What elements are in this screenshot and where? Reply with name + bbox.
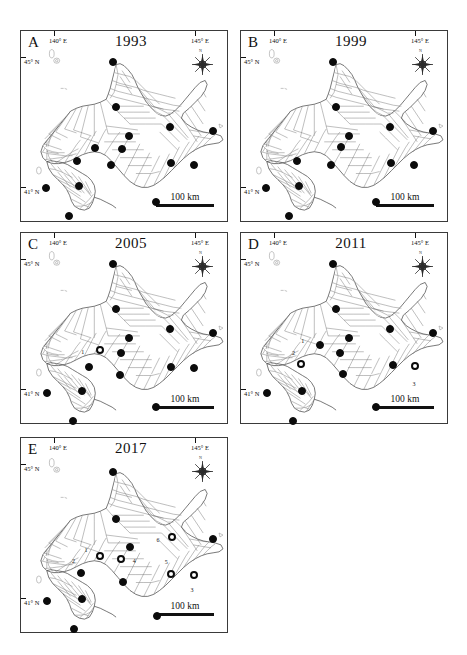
marker-number-label: 1 (84, 547, 87, 553)
map-panel-C: C 2005 140° E 145° E 45° N 41° N N 100 k… (20, 232, 228, 424)
filled-circle-site (125, 132, 133, 140)
filled-circle-site (119, 578, 127, 586)
marker-layer: 614253 (21, 438, 227, 632)
filled-circle-site (109, 58, 117, 66)
filled-circle-site (345, 334, 353, 342)
filled-circle-site (70, 625, 78, 633)
filled-circle-site (285, 212, 293, 220)
filled-circle-site (152, 403, 160, 411)
filled-circle-site (332, 103, 340, 111)
filled-circle-site (126, 543, 134, 551)
open-circle-site (117, 555, 125, 563)
filled-circle-site (78, 595, 86, 603)
filled-circle-site (112, 515, 120, 523)
filled-circle-site (153, 612, 161, 620)
marker-layer: 123 (241, 233, 447, 423)
filled-circle-site (109, 468, 117, 476)
filled-circle-site (166, 123, 174, 131)
filled-circle-site (109, 260, 117, 268)
filled-circle-site (316, 341, 324, 349)
marker-layer (21, 31, 227, 221)
marker-layer (241, 31, 447, 221)
filled-circle-site (78, 387, 86, 395)
filled-circle-site (107, 161, 115, 169)
marker-number-label: 2 (72, 558, 75, 564)
filled-circle-site (190, 161, 198, 169)
marker-number-label: 6 (156, 537, 159, 543)
filled-circle-site (263, 389, 271, 397)
filled-circle-site (262, 184, 270, 192)
open-circle-site (411, 362, 419, 370)
filled-circle-site (372, 403, 380, 411)
filled-circle-site (345, 132, 353, 140)
filled-circle-site (209, 329, 217, 337)
open-circle-site (96, 552, 104, 560)
marker-number-label: 4 (133, 558, 136, 564)
marker-number-label: 2 (292, 350, 295, 356)
filled-circle-site (386, 325, 394, 333)
filled-circle-site (386, 123, 394, 131)
filled-circle-site (116, 371, 124, 379)
filled-circle-site (75, 182, 83, 190)
marker-number-label: 5 (165, 559, 168, 565)
filled-circle-site (295, 182, 303, 190)
filled-circle-site (337, 143, 345, 151)
marker-number-label: 3 (190, 587, 193, 593)
filled-circle-site (289, 417, 297, 425)
map-panel-A: A 1993 140° E 145° E 45° N 41° N N 100 k… (20, 30, 228, 222)
marker-number-label: 3 (413, 381, 416, 387)
filled-circle-site (327, 161, 335, 169)
map-panel-D: D 2011 140° E 145° E 45° N 41° N N 100 k… (240, 232, 448, 424)
filled-circle-site (410, 161, 418, 169)
open-circle-site (167, 570, 175, 578)
filled-circle-site (77, 569, 85, 577)
filled-circle-site (85, 363, 93, 371)
filled-circle-site (209, 127, 217, 135)
filled-circle-site (125, 334, 133, 342)
filled-circle-site (298, 387, 306, 395)
filled-circle-site (166, 325, 174, 333)
filled-circle-site (190, 364, 198, 372)
filled-circle-site (42, 184, 50, 192)
figure-multi-panel-maps: A 1993 140° E 145° E 45° N 41° N N 100 k… (0, 0, 467, 655)
filled-circle-site (332, 305, 340, 313)
filled-circle-site (209, 535, 217, 543)
filled-circle-site (329, 260, 337, 268)
filled-circle-site (69, 417, 77, 425)
open-circle-site (168, 533, 176, 541)
filled-circle-site (43, 597, 51, 605)
filled-circle-site (73, 157, 81, 165)
filled-circle-site (429, 127, 437, 135)
filled-circle-site (372, 198, 380, 206)
filled-circle-site (112, 103, 120, 111)
filled-circle-site (387, 159, 395, 167)
filled-circle-site (389, 361, 397, 369)
filled-circle-site (152, 198, 160, 206)
marker-layer: 1 (21, 233, 227, 423)
filled-circle-site (65, 212, 73, 220)
filled-circle-site (91, 144, 99, 152)
filled-circle-site (329, 58, 337, 66)
marker-number-label: 1 (301, 338, 304, 344)
filled-circle-site (112, 305, 120, 313)
filled-circle-site (339, 370, 347, 378)
map-panel-B: B 1999 140° E 145° E 45° N 41° N N 100 k… (240, 30, 448, 222)
filled-circle-site (167, 159, 175, 167)
open-circle-site (96, 346, 104, 354)
marker-number-label: 1 (81, 349, 84, 355)
filled-circle-site (118, 145, 126, 153)
filled-circle-site (43, 389, 51, 397)
filled-circle-site (293, 157, 301, 165)
filled-circle-site (336, 349, 344, 357)
filled-circle-site (429, 329, 437, 337)
filled-circle-site (117, 349, 125, 357)
filled-circle-site (167, 363, 175, 371)
open-circle-site (297, 360, 305, 368)
open-circle-site (190, 571, 198, 579)
map-panel-E: E 2017 140° E 145° E 45° N 41° N N 100 k… (20, 437, 228, 633)
